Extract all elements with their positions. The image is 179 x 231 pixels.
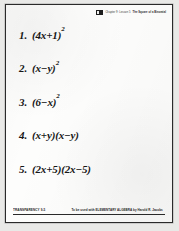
problem-list: 1. (4x+1)2 2. (x−y)2 3. (6−x)2 4. (x+y)(…: [19, 25, 162, 192]
transparency-id-label: TRANSPARENCY 9-5: [13, 208, 45, 213]
scan-canvas: Chapter 9: Lesson 5 The Square of a Bino…: [0, 0, 179, 231]
header-topic-label: The Square of a Binomial: [133, 10, 166, 16]
problem-item: 5. (2x+5)(2x−5): [19, 159, 162, 192]
problem-expression-base: (4x+1): [32, 29, 61, 41]
problem-expression: (6−x)2: [32, 96, 60, 109]
problem-expression: (2x+5)(2x−5): [32, 163, 91, 176]
problem-expression-base: (x−y): [32, 62, 56, 74]
problem-item: 2. (x−y)2: [19, 58, 162, 91]
problem-expression-base: (6−x): [32, 96, 56, 108]
problem-item: 1. (4x+1)2: [19, 25, 162, 58]
problem-expression-exponent: 2: [61, 25, 64, 33]
problem-expression-base: (x+y)(x−y): [32, 129, 79, 141]
problem-number: 5.: [19, 163, 28, 176]
problem-expression: (x+y)(x−y): [32, 129, 79, 142]
problem-item: 4. (x+y)(x−y): [19, 125, 162, 158]
footer-divider: [13, 214, 165, 215]
problem-expression-exponent: 2: [56, 92, 59, 100]
problem-expression-exponent: 2: [56, 59, 59, 67]
sheet-footer: TRANSPARENCY 9-5 To be used with ELEMENT…: [13, 208, 165, 215]
attribution-label: To be used with ELEMENTARY ALGEBRA by Ha…: [71, 208, 162, 213]
sheet-header: Chapter 9: Lesson 5 The Square of a Bino…: [6, 10, 166, 15]
transparency-sheet: Chapter 9: Lesson 5 The Square of a Bino…: [5, 4, 173, 223]
problem-number: 2.: [19, 62, 28, 75]
problem-number: 1.: [19, 29, 28, 42]
problem-item: 3. (6−x)2: [19, 92, 162, 125]
problem-number: 3.: [19, 96, 28, 109]
problem-expression-base: (2x+5)(2x−5): [32, 163, 91, 175]
problem-number: 4.: [19, 129, 28, 142]
header-course-label: Chapter 9: Lesson 5: [105, 10, 130, 16]
problem-expression: (4x+1)2: [32, 29, 65, 42]
publisher-logo-icon: [96, 10, 103, 15]
problem-expression: (x−y)2: [32, 62, 59, 75]
